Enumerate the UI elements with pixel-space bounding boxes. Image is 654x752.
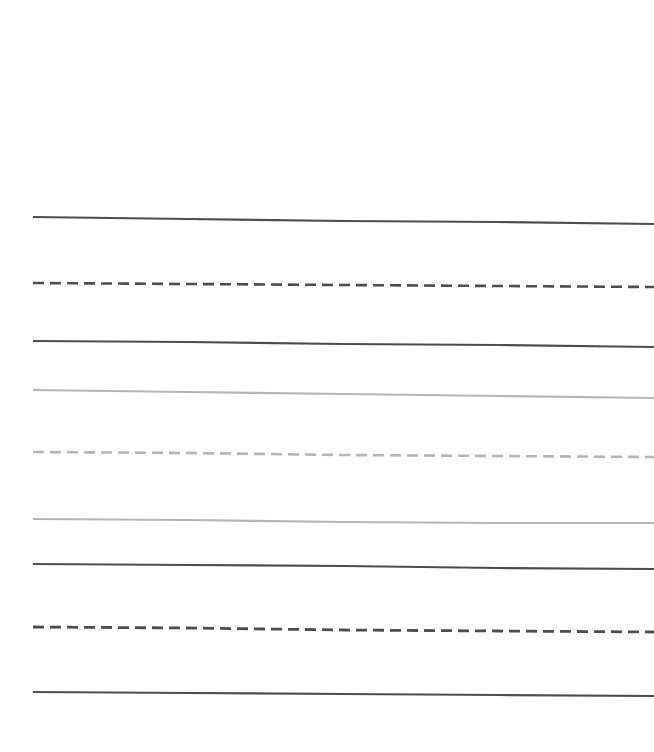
chart-canvas: [0, 0, 654, 752]
line-chart-plot: [0, 0, 654, 752]
plot-background: [0, 0, 654, 752]
